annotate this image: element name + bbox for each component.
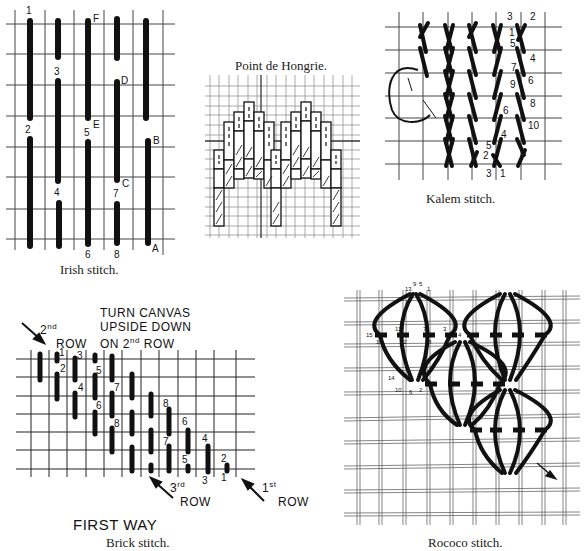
irish-label: B <box>153 135 160 146</box>
row-label-text: ROW <box>278 495 309 509</box>
row-1-label: 1st ROW <box>262 478 309 509</box>
kalem-label: 3 <box>507 11 513 22</box>
brick-label: 8 <box>163 398 169 409</box>
brick-label: 6 <box>96 400 102 411</box>
row-label-text: ROW <box>180 495 211 509</box>
row-label-text: ROW <box>56 337 87 351</box>
brick-label: 7 <box>163 436 169 447</box>
rococo-label: 11 <box>395 326 402 332</box>
point-de-hongrie-figure: Point de Hongrie. <box>195 60 375 240</box>
brick-label: 5 <box>182 454 188 465</box>
rococo-label: 10 <box>395 387 402 393</box>
kalem-label: 5 <box>510 38 516 49</box>
irish-label: F <box>93 13 99 24</box>
irish-stitch-figure: 1 2 3 4 5 6 7 8 A B C D E F Irish stitch… <box>0 0 185 280</box>
rococo-label: 9 <box>413 281 417 287</box>
rococo-label: 8 <box>428 339 432 345</box>
rococo-label: 16 <box>376 339 383 345</box>
brick-stitch-caption: Brick stitch. <box>106 535 170 551</box>
kalem-label: 3 <box>486 168 492 179</box>
irish-stitch-diagram: 1 2 3 4 5 6 7 8 A B C D E F <box>0 0 185 260</box>
brick-label: 1 <box>221 472 227 483</box>
irish-label: 6 <box>85 249 91 260</box>
note-line: UPSIDE DOWN <box>100 320 192 334</box>
rococo-label: 3 <box>443 326 447 332</box>
irish-label: A <box>152 243 159 254</box>
irish-label: 8 <box>114 249 120 260</box>
kalem-label: 10 <box>528 120 540 131</box>
rococo-label: 2 <box>419 387 423 393</box>
irish-label: 7 <box>113 188 119 199</box>
rococo-label: 12 <box>400 339 407 345</box>
rococo-stitch-figure: 13 9 5 1 15 16 11 12 7 8 3 4 14 10 6 2 R… <box>330 280 585 541</box>
kalem-label: 9 <box>510 79 516 90</box>
brick-label: 2 <box>221 453 227 464</box>
rococo-label: 15 <box>366 332 373 338</box>
kalem-label: 1 <box>509 27 515 38</box>
rococo-stitch-diagram: 13 9 5 1 15 16 11 12 7 8 3 4 14 10 6 2 <box>330 280 585 530</box>
irish-label: 5 <box>84 127 90 138</box>
brick-label: 8 <box>114 418 120 429</box>
brick-label: 4 <box>202 433 208 444</box>
irish-label: E <box>93 119 100 130</box>
irish-stitch-caption: Irish stitch. <box>60 262 119 278</box>
kalem-stitch-diagram: 3 2 1 5 4 7 6 9 8 10 6 4 5 2 3 1 <box>380 0 585 200</box>
turn-canvas-note: TURN CANVAS UPSIDE DOWN ON 2nd ROW <box>100 306 192 351</box>
kalem-label: 4 <box>530 53 536 64</box>
irish-label: 4 <box>54 187 60 198</box>
irish-label: 2 <box>25 124 31 135</box>
brick-label: 7 <box>114 382 120 393</box>
note-line: TURN CANVAS <box>100 306 192 320</box>
brick-stitch-figure: 1 2 3 4 5 6 7 8 8 7 6 5 4 3 2 1 TURN C <box>0 280 330 541</box>
row-3-label: 3rd ROW <box>170 478 211 509</box>
brick-label: 6 <box>182 416 188 427</box>
rococo-label: 5 <box>419 281 423 287</box>
rococo-label: 13 <box>405 286 412 292</box>
irish-label: 3 <box>54 66 60 77</box>
row-2-label: 2nd ROW <box>40 320 87 351</box>
irish-label: C <box>122 178 129 189</box>
kalem-label: 2 <box>530 11 536 22</box>
brick-label: 3 <box>77 350 83 361</box>
kalem-stitch-figure: 3 2 1 5 4 7 6 9 8 10 6 4 5 2 3 1 Kalem s… <box>380 0 585 220</box>
kalem-label: 6 <box>528 75 534 86</box>
brick-label: 2 <box>60 363 66 374</box>
kalem-label: 8 <box>530 98 536 109</box>
kalem-label: 6 <box>503 105 509 116</box>
rococo-label: 14 <box>388 375 395 381</box>
rococo-stitch-caption: Rococo stitch. <box>428 535 502 551</box>
irish-label: D <box>121 75 128 86</box>
kalem-label: 1 <box>500 168 506 179</box>
note-line: ON 2nd ROW <box>100 334 192 351</box>
brick-label: 5 <box>96 365 102 376</box>
kalem-stitch-caption: Kalem stitch. <box>426 191 495 207</box>
point-de-hongrie-diagram <box>195 60 375 240</box>
kalem-label: 2 <box>483 150 489 161</box>
rococo-label: 4 <box>458 332 462 338</box>
kalem-label: 7 <box>511 62 517 73</box>
first-way-title: FIRST WAY <box>73 516 157 533</box>
kalem-label: 4 <box>501 129 507 140</box>
brick-label: 4 <box>78 382 84 393</box>
irish-label: 1 <box>26 5 32 16</box>
